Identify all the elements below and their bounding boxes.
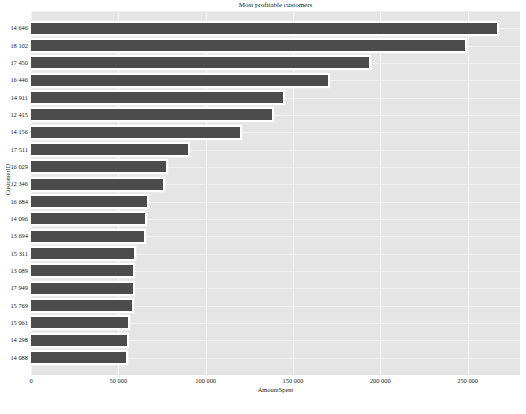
bar bbox=[31, 144, 188, 155]
y-axis-tick-label: 15 769 bbox=[0, 302, 28, 310]
y-axis-tick-label: 17 511 bbox=[0, 146, 28, 154]
bar bbox=[31, 248, 134, 259]
bar bbox=[31, 265, 133, 276]
y-axis-title: CustomerID bbox=[4, 155, 11, 205]
page-title: Most profitable customers bbox=[31, 1, 520, 10]
bar bbox=[31, 92, 283, 103]
bar-row bbox=[31, 107, 520, 123]
bar bbox=[31, 57, 369, 68]
y-axis-tick-label: 12 415 bbox=[0, 111, 28, 119]
bar-row bbox=[31, 298, 520, 314]
y-axis-tick-label: 17 450 bbox=[0, 59, 28, 67]
bar-row bbox=[31, 332, 520, 348]
x-axis-tick-label: 50 000 bbox=[110, 377, 128, 385]
bar bbox=[31, 300, 132, 311]
y-axis-tick-label: 14 088 bbox=[0, 354, 28, 362]
bar bbox=[31, 127, 240, 138]
bar bbox=[31, 283, 133, 294]
bar-row bbox=[31, 90, 520, 106]
x-axis-tick-label: 150 000 bbox=[283, 377, 304, 385]
bar-row bbox=[31, 350, 520, 366]
y-axis-tick-label: 16 446 bbox=[0, 76, 28, 84]
y-axis-tick-label: 13 089 bbox=[0, 267, 28, 275]
bar bbox=[31, 352, 126, 363]
bar bbox=[31, 213, 145, 224]
bar-row bbox=[31, 142, 520, 158]
bar bbox=[31, 161, 166, 172]
plot-area bbox=[31, 11, 520, 375]
bar-row bbox=[31, 176, 520, 192]
bar-row bbox=[31, 246, 520, 262]
y-axis-tick-label: 14 911 bbox=[0, 94, 28, 102]
bar-row bbox=[31, 38, 520, 54]
bar bbox=[31, 109, 272, 120]
bar-row bbox=[31, 20, 520, 36]
y-axis-tick-label: 14 096 bbox=[0, 215, 28, 223]
x-axis-tick-label: 0 bbox=[29, 377, 32, 385]
bar-row bbox=[31, 194, 520, 210]
bar bbox=[31, 40, 465, 51]
bar bbox=[31, 23, 497, 34]
x-axis-title: AmountSpent bbox=[31, 386, 520, 393]
bar-row bbox=[31, 280, 520, 296]
y-axis-tick-label: 14 646 bbox=[0, 24, 28, 32]
y-axis-tick-label: 15 061 bbox=[0, 319, 28, 327]
bar-row bbox=[31, 55, 520, 71]
bar-row bbox=[31, 211, 520, 227]
bar bbox=[31, 231, 144, 242]
bar-row bbox=[31, 315, 520, 331]
y-axis-tick-label: 14 156 bbox=[0, 128, 28, 136]
bar bbox=[31, 317, 128, 328]
x-axis-tick-label: 250 000 bbox=[457, 377, 478, 385]
bar-row bbox=[31, 263, 520, 279]
y-axis-tick-label: 13 694 bbox=[0, 232, 28, 240]
y-axis-tick-label: 14 298 bbox=[0, 336, 28, 344]
x-axis-tick-label: 200 000 bbox=[370, 377, 391, 385]
gridline-horizontal bbox=[31, 11, 520, 12]
bar-row bbox=[31, 159, 520, 175]
y-axis-tick-label: 17 949 bbox=[0, 284, 28, 292]
bar bbox=[31, 179, 163, 190]
bar-row bbox=[31, 72, 520, 88]
bar-row bbox=[31, 124, 520, 140]
chart-figure: Most profitable customers 14 64618 10217… bbox=[0, 0, 526, 414]
bar-row bbox=[31, 228, 520, 244]
bar bbox=[31, 196, 147, 207]
y-axis-tick-label: 18 102 bbox=[0, 42, 28, 50]
x-axis-tick-label: 100 000 bbox=[195, 377, 216, 385]
bar bbox=[31, 75, 328, 86]
y-axis-tick-label: 15 311 bbox=[0, 250, 28, 258]
bar bbox=[31, 335, 127, 346]
